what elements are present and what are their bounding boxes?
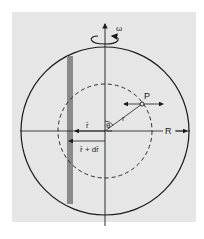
omega-label: ω — [116, 24, 122, 33]
r-label: r — [122, 114, 125, 123]
diagram-canvas: ω P θ r r̄ r̄ + dr̄ R — [0, 0, 204, 239]
shell-strip — [67, 56, 73, 204]
point-p-label: P — [144, 91, 150, 101]
r-vector-label: r̄ — [85, 121, 89, 130]
point-p — [140, 102, 144, 106]
r-plus-dr-label: r̄ + dr̄ — [79, 145, 99, 154]
theta-label: θ — [106, 121, 111, 130]
big-r-label: R — [165, 126, 172, 136]
